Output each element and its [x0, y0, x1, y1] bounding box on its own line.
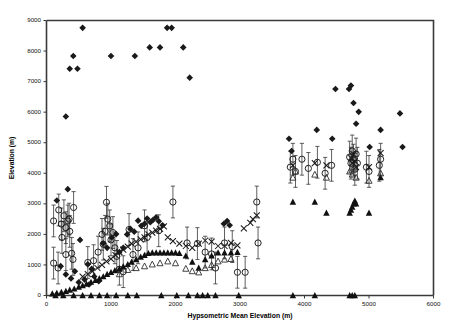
x-tick-label: 3000: [233, 300, 247, 307]
x-tick-label: 1000: [104, 300, 118, 307]
y-tick-label: 9000: [27, 16, 41, 23]
x-tick-label: 5000: [362, 300, 376, 307]
x-tick-label: 6000: [427, 300, 441, 307]
y-tick-label: 6000: [27, 108, 41, 115]
y-tick-label: 5000: [27, 138, 41, 145]
y-tick-label: 7000: [27, 77, 41, 84]
chart-svg: 0100020003000400050006000700080009000010…: [0, 0, 458, 334]
y-tick-label: 2000: [27, 230, 41, 237]
x-tick-label: 2000: [169, 300, 183, 307]
y-tick-label: 1000: [27, 261, 41, 268]
y-tick-label: 8000: [27, 47, 41, 54]
x-tick-label: 4000: [298, 300, 312, 307]
x-axis-title: Hypsometric Mean Elevation (m): [188, 312, 293, 320]
y-tick-label: 3000: [27, 199, 41, 206]
y-axis-title: Elevation (m): [8, 137, 16, 180]
scatter-chart: 0100020003000400050006000700080009000010…: [0, 0, 458, 334]
x-tick-label: 0: [45, 300, 49, 307]
y-tick-label: 0: [38, 291, 42, 298]
y-tick-label: 4000: [27, 169, 41, 176]
chart-background: [0, 0, 458, 334]
